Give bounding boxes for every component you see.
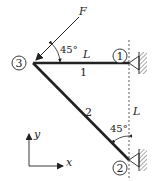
pin-support-node-1 <box>129 52 147 74</box>
y-axis-label: y <box>33 128 41 141</box>
angle-arc-node-3 <box>52 44 60 62</box>
angle-arc-node-2 <box>112 136 129 143</box>
truss-diagram: F 45° 45° L 1 2 L 3 1 2 y x <box>0 0 154 181</box>
svg-text:3: 3 <box>16 57 23 70</box>
node-3-marker: 3 <box>12 56 26 70</box>
node-2-angle-label: 45° <box>110 123 128 134</box>
member-1-length-label: L <box>82 48 90 61</box>
svg-text:2: 2 <box>117 162 124 175</box>
vertical-length-label: L <box>132 105 140 118</box>
force-label: F <box>78 5 87 18</box>
pin-support-node-2 <box>129 149 147 171</box>
force-angle-label: 45° <box>60 44 78 55</box>
coordinate-axes: y x <box>29 128 73 169</box>
member-2-label: 2 <box>85 106 92 119</box>
member-1-label: 1 <box>80 66 87 79</box>
svg-text:1: 1 <box>117 50 124 63</box>
node-1-marker: 1 <box>113 49 127 63</box>
node-2-marker: 2 <box>113 161 127 175</box>
x-axis-label: x <box>66 156 73 169</box>
